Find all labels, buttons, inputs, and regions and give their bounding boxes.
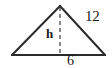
triangle-diagram: 12 h 6: [0, 0, 112, 68]
hypotenuse-length-label: 12: [85, 9, 99, 24]
base-length-label: 6: [67, 54, 74, 68]
height-label: h: [46, 27, 53, 40]
